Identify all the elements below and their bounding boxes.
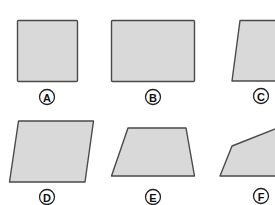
trapezoid-shape	[232, 21, 275, 82]
label-c: C	[257, 91, 265, 103]
figure-c: C	[232, 21, 275, 104]
figure-e: E	[112, 128, 195, 205]
figure-f: F	[220, 127, 275, 204]
parallelogram-shape	[10, 121, 94, 182]
quadrilateral-figures: A B C D E F	[0, 0, 275, 205]
figure-b: B	[112, 21, 195, 105]
label-b: B	[149, 92, 157, 104]
label-e: E	[149, 192, 156, 204]
irregular-polygon-shape	[220, 127, 275, 176]
figure-d: D	[10, 121, 94, 205]
trapezoid-shape	[112, 128, 195, 176]
figure-a: A	[18, 21, 78, 105]
label-d: D	[43, 192, 51, 204]
label-a: A	[43, 92, 51, 104]
rectangle-shape	[112, 21, 195, 82]
square-shape	[18, 21, 78, 82]
label-f: F	[258, 191, 265, 203]
